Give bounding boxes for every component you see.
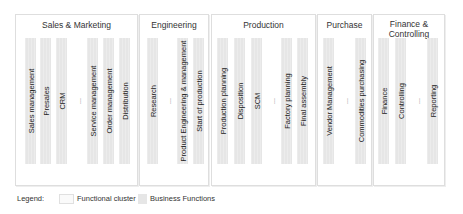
function-label: CRM xyxy=(57,92,66,109)
ellipsis-label: ... xyxy=(413,98,420,104)
ellipsis-label: ... xyxy=(164,98,171,104)
business-function: Final assembly xyxy=(297,38,308,164)
function-label: Finance xyxy=(379,88,388,115)
function-label: Reporting xyxy=(428,85,437,118)
cluster-title: Engineering xyxy=(140,20,208,30)
cluster-engineering: Engineering Research ... Product Enginee… xyxy=(139,14,209,186)
function-label: Start of production xyxy=(194,70,203,131)
function-label: Sales management xyxy=(26,69,35,134)
business-function: Start of production xyxy=(193,38,204,164)
function-label: Controlling xyxy=(396,83,405,119)
ellipsis-label: ... xyxy=(268,98,275,104)
cluster-title-line1: Finance & xyxy=(374,19,444,29)
function-label: Research xyxy=(148,85,157,117)
business-function: Sales management xyxy=(25,38,36,164)
business-function: Factory planning xyxy=(281,38,292,164)
legend-title: Legend: xyxy=(17,194,44,203)
ellipsis: ... xyxy=(162,38,173,164)
ellipsis-label: ... xyxy=(341,98,348,104)
function-label: Production planning xyxy=(218,68,227,134)
business-function: Research xyxy=(147,38,158,164)
business-function: Disposition xyxy=(234,38,245,164)
cluster-title: Purchase xyxy=(318,20,371,30)
function-label: Service management xyxy=(88,66,97,137)
ellipsis: ... xyxy=(411,38,422,164)
function-label: Distribution xyxy=(120,82,129,120)
business-function: Product Engineering & management xyxy=(177,38,188,164)
ellipsis: ... xyxy=(266,38,277,164)
legend-business-functions-label: Business Functions xyxy=(150,194,215,203)
business-function: Vendor Management xyxy=(323,38,334,164)
function-label: SCM xyxy=(252,93,261,110)
function-label: Presales xyxy=(41,86,50,115)
function-label: Product Engineering & management xyxy=(178,41,187,162)
business-function: Service management xyxy=(87,38,98,164)
legend-swatch-business-functions xyxy=(138,194,147,204)
business-function: Reporting xyxy=(427,38,438,164)
business-function: Finance xyxy=(378,38,389,164)
business-function: Order management xyxy=(103,38,114,164)
function-label: Vendor Management xyxy=(324,66,333,136)
business-function: Commodities purchasing xyxy=(355,38,366,164)
cluster-title: Sales & Marketing xyxy=(16,20,137,30)
cluster-title: Finance & Controlling xyxy=(374,19,444,39)
cluster-title: Production xyxy=(212,20,315,30)
ellipsis-label: ... xyxy=(74,98,81,104)
function-label: Disposition xyxy=(235,83,244,120)
cluster-finance-controlling: Finance & Controlling Finance Controllin… xyxy=(373,14,445,186)
ellipsis: ... xyxy=(72,38,83,164)
cluster-production: Production Production planning Dispositi… xyxy=(211,14,316,186)
business-function: Controlling xyxy=(395,38,406,164)
business-function: Distribution xyxy=(119,38,130,164)
business-function: Production planning xyxy=(217,38,228,164)
business-function: SCM xyxy=(251,38,262,164)
business-function: Presales xyxy=(40,38,51,164)
function-label: Order management xyxy=(104,68,113,133)
legend-functional-cluster-label: Functional cluster xyxy=(77,194,136,203)
function-label: Commodities purchasing xyxy=(356,60,365,143)
function-label: Final assembly xyxy=(298,76,307,126)
cluster-purchase: Purchase Vendor Management ... Commoditi… xyxy=(317,14,372,186)
function-label: Factory planning xyxy=(282,73,291,128)
cluster-sales-marketing: Sales & Marketing Sales management Presa… xyxy=(15,14,138,186)
business-function: CRM xyxy=(56,38,67,164)
legend-swatch-functional-cluster xyxy=(59,194,74,204)
ellipsis: ... xyxy=(339,38,350,164)
